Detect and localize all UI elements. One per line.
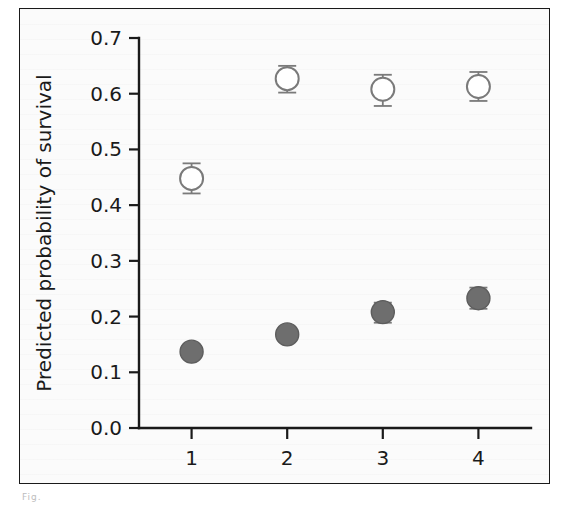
open-circle-marker	[276, 67, 299, 90]
data-point	[180, 340, 203, 363]
data-series-group	[180, 66, 490, 363]
x-tick-label: 2	[281, 446, 294, 470]
data-point	[371, 301, 394, 324]
data-point	[467, 287, 490, 310]
y-tick-label: 0.1	[90, 360, 122, 384]
series-open-circle-series	[180, 66, 490, 194]
data-point	[276, 323, 299, 346]
data-point	[467, 72, 490, 101]
filled-circle-marker	[371, 301, 394, 324]
x-tick-label: 1	[185, 446, 198, 470]
open-circle-marker	[180, 167, 203, 190]
filled-circle-marker	[276, 323, 299, 346]
data-point	[371, 75, 394, 106]
series-filled-circle-series	[180, 287, 490, 363]
y-axis-title: Predicted probability of survival	[32, 74, 56, 391]
y-axis: 0.00.10.20.30.40.50.60.7	[90, 26, 139, 440]
filled-circle-marker	[467, 287, 490, 310]
open-circle-marker	[467, 75, 490, 98]
filled-circle-marker	[180, 340, 203, 363]
y-tick-label: 0.4	[90, 193, 122, 217]
x-axis: 1234	[139, 428, 531, 470]
x-axis-title: Heterozygosity quartile	[218, 481, 452, 484]
y-tick-label: 0.2	[90, 305, 122, 329]
figure-root: 0.00.10.20.30.40.50.60.7 1234 Heterozygo…	[0, 0, 571, 513]
caption-stub: Fig.	[22, 492, 62, 504]
data-point	[276, 66, 299, 93]
y-tick-label: 0.5	[90, 137, 122, 161]
y-tick-label: 0.6	[90, 82, 122, 106]
data-point	[180, 163, 203, 193]
scatter-plot: 0.00.10.20.30.40.50.60.7 1234 Heterozygo…	[19, 8, 550, 484]
open-circle-marker	[371, 78, 394, 101]
y-tick-label: 0.7	[90, 26, 122, 50]
y-tick-label: 0.3	[90, 249, 122, 273]
x-tick-label: 3	[376, 446, 389, 470]
y-tick-label: 0.0	[90, 416, 122, 440]
x-tick-label: 4	[472, 446, 485, 470]
